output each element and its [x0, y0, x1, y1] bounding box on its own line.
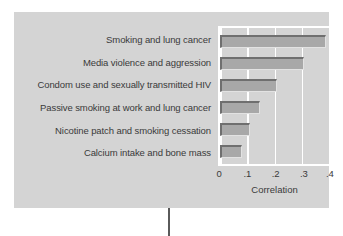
bar-row: [220, 140, 329, 162]
category-label: Calcium intake and bone mass: [14, 141, 217, 164]
x-tick-label: .1: [243, 168, 251, 179]
bar-row: [220, 74, 329, 96]
bar: [220, 57, 304, 70]
page-tick-mark: [168, 208, 170, 236]
x-tick-label: .2: [272, 168, 280, 179]
bar: [220, 101, 260, 114]
category-label: Condom use and sexually transmitted HIV: [14, 73, 217, 96]
chart-panel: Smoking and lung cancer Media violence a…: [14, 12, 329, 208]
x-tick-label: .3: [300, 168, 308, 179]
bar: [220, 79, 277, 92]
x-axis-title: Correlation: [218, 184, 331, 195]
plot-inner: [220, 28, 329, 164]
plot-area: [218, 26, 331, 166]
x-tick-label: .4: [326, 168, 334, 179]
category-axis-labels: Smoking and lung cancer Media violence a…: [14, 28, 217, 164]
bar: [220, 123, 250, 136]
category-label: Passive smoking at work and lung cancer: [14, 96, 217, 119]
bar-row: [220, 118, 329, 140]
bar-row: [220, 96, 329, 118]
figure: Smoking and lung cancer Media violence a…: [0, 0, 343, 236]
x-axis-ticks: 0 .1 .2 .3 .4: [218, 168, 331, 182]
category-label: Nicotine patch and smoking cessation: [14, 119, 217, 142]
chart-body: Smoking and lung cancer Media violence a…: [14, 12, 329, 208]
bar: [220, 35, 326, 48]
bar-row: [220, 52, 329, 74]
category-label: Smoking and lung cancer: [14, 28, 217, 51]
bars-area: [220, 30, 329, 162]
bar: [220, 145, 242, 158]
x-tick-label: 0: [216, 168, 221, 179]
bar-row: [220, 30, 329, 52]
category-label: Media violence and aggression: [14, 51, 217, 74]
